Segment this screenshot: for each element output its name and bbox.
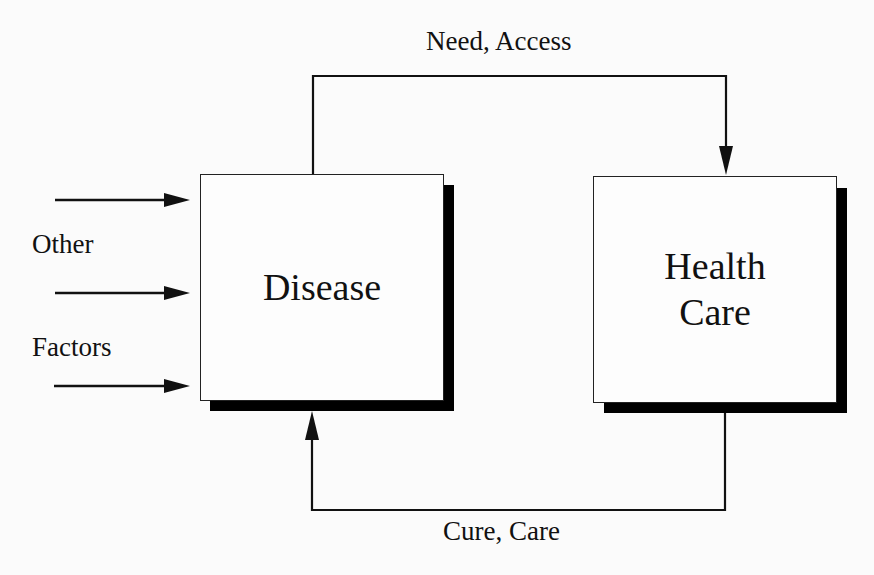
health-care-label-line2: Care: [679, 290, 751, 336]
arrowhead-right-icon: [164, 286, 190, 300]
other-factors-arrows: [54, 193, 190, 393]
arrowhead-right-icon: [164, 379, 190, 393]
cure-care-label: Cure, Care: [443, 516, 560, 547]
arrowhead-down-icon: [719, 146, 733, 175]
need-access-label: Need, Access: [426, 26, 571, 57]
arrowhead-up-icon: [305, 411, 319, 440]
health-care-label-line1: Health: [664, 244, 765, 290]
disease-label: Disease: [263, 265, 381, 311]
factors-label: Factors: [32, 332, 111, 363]
health-care-box: Health Care: [593, 176, 837, 403]
need-access-arrow: [313, 76, 733, 175]
cure-care-arrow: [305, 411, 725, 510]
other-label: Other: [32, 229, 93, 260]
arrowhead-right-icon: [164, 193, 190, 207]
disease-box: Disease: [200, 174, 444, 401]
